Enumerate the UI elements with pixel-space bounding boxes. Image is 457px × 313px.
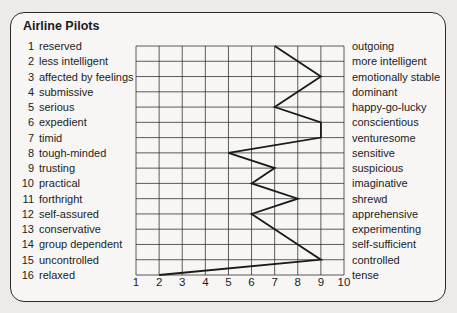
x-tick-label: 4 [195,276,215,288]
x-tick-label: 7 [265,276,285,288]
x-tick-label: 2 [149,276,169,288]
x-tick-label: 9 [311,276,331,288]
x-tick-label: 5 [218,276,238,288]
profile-line [159,46,321,275]
x-tick-label: 1 [126,276,146,288]
profile-plot [0,0,457,313]
x-tick-label: 6 [242,276,262,288]
grid-lines [136,46,344,275]
x-tick-label: 3 [172,276,192,288]
x-tick-label: 8 [288,276,308,288]
x-tick-label: 10 [334,276,354,288]
